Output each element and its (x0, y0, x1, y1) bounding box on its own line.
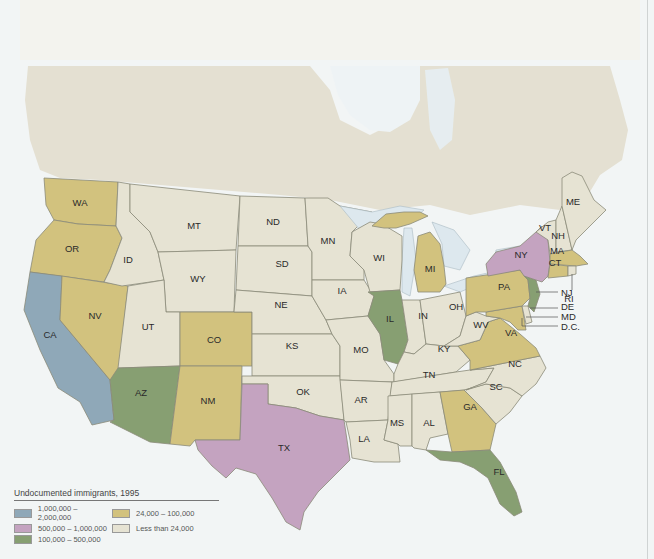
legend-item-500k-1m: 500,000 – 1,000,000 (14, 524, 112, 533)
legend-label: 24,000 – 100,000 (136, 509, 194, 518)
label-ny: NY (514, 249, 528, 260)
label-ia: IA (338, 285, 348, 296)
label-ms: MS (390, 417, 404, 428)
label-vt: VT (539, 222, 551, 233)
canada-northern (20, 0, 640, 60)
legend-title: Undocumented immigrants, 1995 (14, 488, 219, 501)
label-ky: KY (438, 343, 451, 354)
label-wi: WI (373, 252, 385, 263)
label-nd: ND (266, 216, 280, 227)
label-ma: MA (550, 245, 565, 256)
label-mt: MT (187, 220, 201, 231)
label-nv: NV (88, 310, 102, 321)
label-ca: CA (43, 329, 57, 340)
legend-label: 100,000 – 500,000 (38, 535, 101, 544)
label-pa: PA (498, 281, 511, 292)
label-ne: NE (274, 299, 287, 310)
label-me: ME (566, 196, 580, 207)
label-mn: MN (321, 235, 336, 246)
label-mi: MI (425, 263, 436, 274)
label-wa: WA (73, 197, 89, 208)
label-co: CO (207, 334, 221, 345)
frame-edge-line (647, 0, 648, 559)
label-tn: TN (423, 369, 436, 380)
label-az: AZ (135, 387, 147, 398)
legend-swatch-500k-1m (14, 524, 32, 533)
label-mo: MO (353, 344, 368, 355)
label-fl: FL (493, 466, 504, 477)
label-ut: UT (142, 321, 155, 332)
label-oh: OH (449, 301, 463, 312)
legend-item-lt-24k: Less than 24,000 (112, 524, 217, 533)
label-dc: D.C. (561, 321, 580, 332)
label-sc: SC (489, 381, 502, 392)
label-nm: NM (201, 395, 216, 406)
state-nm (170, 366, 242, 446)
legend-label: Less than 24,000 (136, 524, 194, 533)
label-ks: KS (286, 340, 299, 351)
legend-swatch-lt-24k (112, 524, 130, 533)
legend-label: 1,000,000 – 2,000,000 (38, 504, 112, 522)
legend-item-1m-2m: 1,000,000 – 2,000,000 (14, 504, 112, 522)
label-ok: OK (296, 386, 310, 397)
label-id: ID (123, 254, 133, 265)
legend-swatch-1m-2m (14, 509, 32, 518)
choropleth-map: WA OR CA NV ID MT WY UT AZ CO NM ND SD N… (0, 0, 654, 559)
legend-swatch-100k-500k (14, 535, 32, 544)
label-wv: WV (473, 319, 489, 330)
legend-item-100k-500k: 100,000 – 500,000 (14, 535, 112, 544)
label-tx: TX (278, 442, 291, 453)
map-legend: Undocumented immigrants, 1995 1,000,000 … (14, 488, 219, 544)
label-sd: SD (275, 258, 288, 269)
label-ga: GA (463, 401, 477, 412)
label-la: LA (358, 433, 370, 444)
legend-item-24k-100k: 24,000 – 100,000 (112, 504, 217, 522)
label-nc: NC (508, 358, 522, 369)
label-ct: CT (549, 257, 562, 268)
label-nj: NJ (561, 287, 573, 298)
legend-label: 500,000 – 1,000,000 (38, 524, 107, 533)
label-va: VA (505, 327, 518, 338)
label-il: IL (386, 313, 394, 324)
label-or: OR (65, 243, 79, 254)
label-in: IN (418, 310, 428, 321)
state-sd (236, 246, 312, 296)
legend-swatch-24k-100k (112, 509, 130, 518)
label-wy: WY (190, 273, 206, 284)
label-ar: AR (354, 394, 367, 405)
label-nh: NH (551, 230, 565, 241)
label-al: AL (423, 417, 435, 428)
